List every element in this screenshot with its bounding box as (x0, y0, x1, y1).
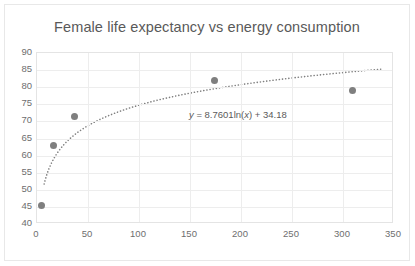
chart-title: Female life expectancy vs energy consump… (5, 19, 409, 35)
y-axis-tick-label: 55 (8, 167, 32, 177)
y-axis: 4045505560657075808590 (5, 52, 32, 223)
gridline-horizontal (37, 121, 392, 122)
data-point[interactable] (349, 87, 356, 94)
x-axis-tick-label: 100 (118, 229, 158, 239)
y-axis-tick-label: 65 (8, 133, 32, 143)
gridline-vertical (190, 53, 191, 222)
y-axis-tick-label: 60 (8, 150, 32, 160)
y-axis-tick-label: 50 (8, 184, 32, 194)
gridline-horizontal (37, 70, 392, 71)
y-axis-tick-label: 45 (8, 201, 32, 211)
gridline-horizontal (37, 139, 392, 140)
gridline-vertical (343, 53, 344, 222)
gridline-horizontal (37, 190, 392, 191)
gridline-horizontal (37, 156, 392, 157)
x-axis-tick-label: 0 (16, 229, 56, 239)
data-point[interactable] (38, 202, 45, 209)
y-axis-tick-label: 75 (8, 98, 32, 108)
y-axis-tick-label: 80 (8, 81, 32, 91)
x-axis-tick-label: 200 (220, 229, 260, 239)
y-axis-tick-label: 85 (8, 64, 32, 74)
x-axis-tick-label: 300 (322, 229, 362, 239)
gridline-vertical (139, 53, 140, 222)
y-axis-tick-label: 70 (8, 115, 32, 125)
trendline-equation-label: y = 8.7601ln(x) + 34.18 (189, 109, 287, 120)
data-point[interactable] (50, 142, 57, 149)
x-axis-tick-label: 350 (373, 229, 413, 239)
gridline-vertical (292, 53, 293, 222)
gridline-vertical (241, 53, 242, 222)
plot-area (36, 52, 393, 223)
x-axis: 050100150200250300350 (36, 229, 393, 243)
y-axis-tick-label: 40 (8, 218, 32, 228)
gridline-horizontal (37, 104, 392, 105)
gridline-horizontal (37, 173, 392, 174)
gridline-horizontal (37, 207, 392, 208)
gridline-horizontal (37, 87, 392, 88)
y-axis-tick-label: 90 (8, 47, 32, 57)
x-axis-tick-label: 50 (67, 229, 107, 239)
data-point[interactable] (211, 77, 218, 84)
gridline-vertical (88, 53, 89, 222)
data-point[interactable] (71, 113, 78, 120)
chart-container: Female life expectancy vs energy consump… (4, 4, 410, 261)
x-axis-tick-label: 150 (169, 229, 209, 239)
x-axis-tick-label: 250 (271, 229, 311, 239)
